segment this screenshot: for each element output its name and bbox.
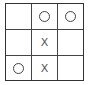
o-mark-icon xyxy=(13,63,24,74)
x-mark: X xyxy=(41,62,49,75)
o-mark-icon xyxy=(65,11,76,22)
cell-r0-c2[interactable] xyxy=(58,4,83,30)
cell-r0-c1[interactable] xyxy=(32,4,58,30)
cell-r1-c1[interactable]: X xyxy=(32,30,58,56)
cell-r0-c0[interactable] xyxy=(6,4,32,30)
cell-r1-c2[interactable] xyxy=(58,30,83,56)
x-mark: X xyxy=(41,36,49,49)
cell-r1-c0[interactable] xyxy=(6,30,32,56)
cell-r2-c0[interactable] xyxy=(6,56,32,80)
o-mark-icon xyxy=(39,11,50,22)
cell-r2-c2[interactable] xyxy=(58,56,83,80)
tic-tac-toe-board: XX xyxy=(5,3,84,81)
cell-r2-c1[interactable]: X xyxy=(32,56,58,80)
